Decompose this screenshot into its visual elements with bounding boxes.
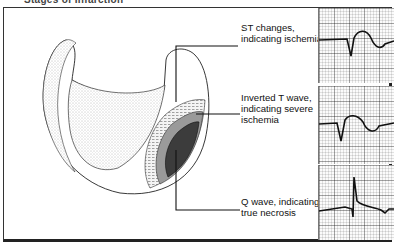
ecg-strip-q-wave [318,165,394,240]
ecg-strip-st-changes [318,8,394,83]
label-inverted-t-wave: Inverted T wave, indicating severe ische… [241,92,313,125]
ecg-strip-inverted-t [318,86,394,164]
ecg-trace-icon [319,8,394,83]
ecg-trace-icon [319,165,394,240]
label-q-wave: Q wave, indicating true necrosis [241,196,319,218]
ecg-trace-icon [319,86,394,164]
label-st-changes: ST changes, indicating ischemia [241,22,322,44]
